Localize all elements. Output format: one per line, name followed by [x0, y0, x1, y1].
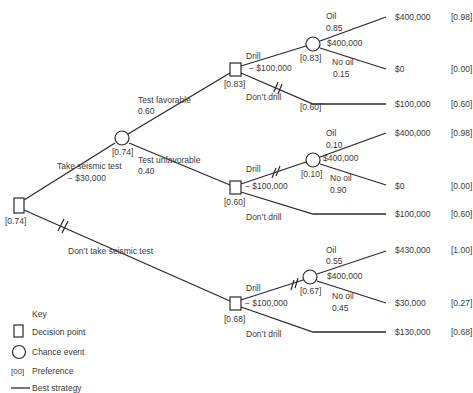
branch-unfav-dont-drill [241, 192, 386, 214]
label-unfav-drill-cost: − $100,000 [245, 181, 288, 191]
label-fav-drill: Drill [246, 51, 261, 61]
legend: Key Decision point Chance event [00] Pre… [11, 309, 86, 393]
branch-take-test [24, 143, 115, 200]
outcome-payoff: $400,000 [395, 12, 431, 22]
chance-node-unfav-oil [306, 153, 320, 167]
label-unfav-oil: Oil [326, 128, 337, 138]
label-unfav-nooil: No oil [330, 173, 352, 183]
label-notest-nooil: No oil [332, 291, 354, 301]
outcome-payoff: $0 [395, 64, 405, 74]
label-fav-dont-drill: Don’t drill [246, 92, 282, 102]
chance-node-fav-oil [306, 37, 320, 51]
label-notest-oil: Oil [326, 245, 337, 255]
outcome-pref: [0.98] [451, 12, 472, 22]
pref-root: [0.74] [5, 216, 26, 226]
outcome-pref: [0.68] [451, 327, 472, 337]
pref-unfav-chance: [0.10] [301, 169, 322, 179]
label-unfav-nooil-prob: 0.90 [330, 185, 347, 195]
label-take-test-cost: − $30,000 [68, 173, 106, 183]
label-unfav-oil-prob: 0.10 [326, 140, 343, 150]
decision-node-root [14, 198, 24, 213]
label-notest-oil-prob: 0.55 [326, 256, 343, 266]
outcome-pref: [0.60] [451, 209, 472, 219]
label-unfav-drill: Drill [246, 164, 261, 174]
label-fav-dont-pref: [0.60] [300, 102, 321, 112]
pref-fav-chance: [0.83] [300, 53, 321, 63]
outcome-pref: [0.60] [451, 99, 472, 109]
outcome-pref: [1.00] [451, 245, 472, 255]
legend-chance: Chance event [32, 347, 85, 357]
chance-node-notest-oil [303, 270, 317, 284]
chance-node-test [115, 131, 129, 145]
label-fav-nooil-prob: 0.15 [333, 69, 350, 79]
label-notest-dont-drill: Don’t drill [246, 329, 282, 339]
legend-best: Best strategy [32, 383, 82, 393]
label-notest-drill: Drill [246, 283, 261, 293]
decision-node-unfavorable [230, 181, 241, 194]
decision-point-icon [14, 325, 23, 337]
label-fav-oil: Oil [326, 11, 337, 21]
legend-title: Key [32, 309, 47, 319]
label-notest-nooil-prob: 0.45 [332, 303, 349, 313]
legend-preference: Preference [32, 366, 74, 376]
outcome-pref: [0.98] [451, 128, 472, 138]
outcome-payoff: $430,000 [395, 245, 431, 255]
label-take-test: Take seismic test [57, 161, 122, 171]
decision-node-no-test [230, 297, 241, 310]
outcome-payoff: $0 [395, 181, 405, 191]
label-unfav-oil-value: $400,000 [323, 153, 359, 163]
label-fav-nooil: No oil [332, 57, 354, 67]
outcome-pref: [0.00] [451, 181, 472, 191]
label-fav-oil-value: $400,000 [327, 38, 363, 48]
label-fav-oil-prob: 0.85 [326, 23, 343, 33]
decision-tree-diagram: [0.74] [0.74] [0.83] [0.83] [0.60] [0.10… [0, 0, 473, 393]
label-no-test: Don’t take seismic test [68, 246, 154, 256]
pref-unfav-decision: [0.60] [224, 197, 245, 207]
label-favorable-prob: 0.60 [138, 106, 155, 116]
outcome-payoff: $400,000 [395, 128, 431, 138]
outcome-pref: [0.27] [451, 298, 472, 308]
label-fav-drill-cost: − $100,000 [249, 63, 292, 73]
label-unfav-dont-drill: Don’t drill [246, 212, 282, 222]
outcome-payoff: $100,000 [395, 209, 431, 219]
pruned-mark [291, 280, 294, 290]
label-notest-oil-value: $400,000 [327, 271, 363, 281]
chance-event-icon [13, 346, 26, 359]
pref-fav-decision: [0.83] [224, 79, 245, 89]
pref-notest-decision: [0.68] [224, 314, 245, 324]
label-unfavorable: Test unfavorable [138, 155, 201, 165]
outcome-payoff: $130,000 [395, 327, 431, 337]
label-notest-drill-cost: − $100,000 [245, 298, 288, 308]
label-favorable: Test favorable [138, 95, 191, 105]
legend-decision: Decision point [32, 327, 86, 337]
outcome-payoff: $100,000 [395, 99, 431, 109]
outcome-payoff: $30,000 [395, 298, 426, 308]
label-unfavorable-prob: 0.40 [138, 166, 155, 176]
pref-notest-chance: [0.67] [300, 286, 321, 296]
outcome-pref: [0.00] [451, 64, 472, 74]
pref-test-chance: [0.74] [112, 147, 133, 157]
preference-icon: [00] [11, 367, 24, 376]
decision-node-favorable [230, 63, 241, 76]
